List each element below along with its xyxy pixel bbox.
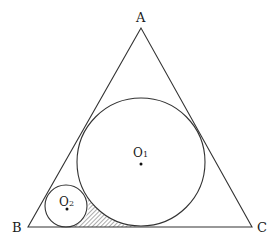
geometry-figure: A B C O 1 O 2 [0,0,279,242]
center-label-o2: O [59,195,69,209]
center-o1-dot [140,163,143,166]
center-label-o1: O [133,146,143,160]
shaded-region [66,194,141,227]
vertex-label-a: A [135,10,146,25]
center-label-o1-subscript: 1 [143,150,148,159]
center-label-o2-subscript: 2 [69,199,74,208]
vertex-label-c: C [257,220,267,235]
circle-o1 [77,98,205,226]
vertex-label-b: B [12,220,22,235]
